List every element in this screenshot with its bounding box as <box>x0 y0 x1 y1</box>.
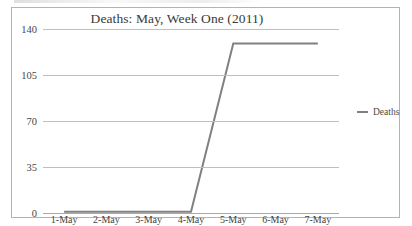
y-axis-tick-label: 140 <box>21 24 37 35</box>
gridline <box>43 121 339 122</box>
scan-artifact <box>14 0 264 3</box>
data-series-path <box>64 43 318 211</box>
chart-title: Deaths: May, Week One (2011) <box>12 11 342 27</box>
legend-item-label: Deaths <box>373 107 399 117</box>
x-axis-tick-label: 4-May <box>170 214 212 225</box>
x-axis-tick-label: 6-May <box>254 214 296 225</box>
gridline <box>43 75 339 76</box>
x-axis-tick-label: 1-May <box>43 214 85 225</box>
y-axis-tick-label: 105 <box>21 70 37 81</box>
x-axis-tick-label: 3-May <box>128 214 170 225</box>
legend-line-marker <box>357 111 368 113</box>
chart-legend: Deaths <box>357 107 399 117</box>
x-axis-labels: 1-May2-May3-May4-May5-May6-May7-May <box>43 214 339 225</box>
x-axis-tick-label: 5-May <box>212 214 254 225</box>
x-axis-tick-label: 7-May <box>297 214 339 225</box>
chart-container: Deaths: May, Week One (2011) 03570105140… <box>11 7 400 218</box>
y-axis-tick-label: 70 <box>27 116 38 127</box>
y-axis-tick-label: 35 <box>27 162 38 173</box>
plot-area: 03570105140 <box>43 29 339 213</box>
y-axis-tick-label: 0 <box>32 208 37 219</box>
gridline <box>43 29 339 30</box>
x-axis-tick-label: 2-May <box>85 214 127 225</box>
gridline <box>43 167 339 168</box>
